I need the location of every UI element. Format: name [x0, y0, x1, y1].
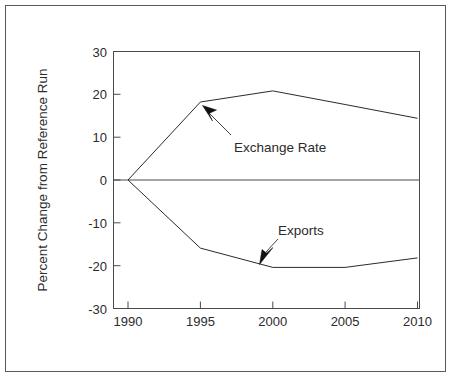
series-line-exchange-rate	[128, 91, 418, 180]
y-tick-label: 0	[100, 173, 107, 188]
figure: 30 20 10 0 -10 -20 -30 1990 1995 2000 20…	[0, 0, 452, 378]
x-tick-label: 1990	[114, 314, 143, 329]
line-chart: 30 20 10 0 -10 -20 -30 1990 1995 2000 20…	[0, 0, 452, 378]
x-tick-marks	[128, 302, 418, 309]
y-tick-label: -10	[88, 216, 107, 231]
y-tick-label: -30	[88, 302, 107, 317]
annotation-exports: Exports	[260, 223, 325, 265]
series-line-exports	[128, 180, 418, 267]
annotation-exchange-rate: Exchange Rate	[203, 106, 327, 156]
exports-arrow-icon	[260, 248, 274, 265]
y-tick-marks	[114, 52, 121, 309]
annotation-label-exports: Exports	[278, 223, 324, 238]
y-axis-title: Percent Change from Reference Run	[35, 69, 50, 292]
exchange-rate-leader-line	[209, 113, 231, 135]
y-tick-label: 10	[93, 130, 107, 145]
y-tick-label: 30	[93, 45, 107, 60]
y-tick-labels: 30 20 10 0 -10 -20 -30	[88, 45, 107, 317]
x-tick-labels: 1990 1995 2000 2005 2010	[114, 314, 432, 329]
y-tick-label: -20	[88, 259, 107, 274]
annotation-label-exchange-rate: Exchange Rate	[234, 140, 326, 155]
x-tick-label: 1995	[186, 314, 215, 329]
exports-leader-line	[266, 239, 278, 252]
x-tick-label: 2005	[331, 314, 360, 329]
x-tick-label: 2000	[258, 314, 287, 329]
x-tick-label: 2010	[403, 314, 432, 329]
y-tick-label: 20	[93, 87, 107, 102]
